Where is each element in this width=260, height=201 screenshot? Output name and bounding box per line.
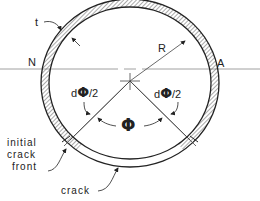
dphi-left-arrow: [84, 102, 90, 114]
radius-label: R: [158, 42, 166, 54]
thickness-label: t: [35, 16, 38, 28]
thickness-arrow: [72, 38, 80, 46]
dphi-right-arrow: [171, 102, 178, 114]
initial-crack-front-label: initial crack front: [7, 137, 41, 172]
crack-angle-label: Φ: [121, 115, 135, 135]
dphi-right-label: dΦ/2: [154, 85, 181, 101]
crack-front-marks: [62, 136, 198, 142]
neutral-axis-label-a: A: [217, 57, 225, 69]
dphi-left-label: dΦ/2: [71, 84, 98, 100]
crack-angle-arrow-right: [144, 118, 162, 126]
thickness-leader: [44, 21, 61, 30]
initial-crack-front-arrow: [48, 149, 66, 171]
neutral-axis-label-n: N: [28, 56, 36, 68]
pipe-crack-diagram: R t N A dΦ/2 dΦ/2 Φ initial crack front …: [0, 0, 260, 201]
crack-arrow: [98, 168, 118, 191]
crack-label: crack: [61, 185, 90, 196]
crack-angle-arrow-left: [98, 118, 116, 126]
